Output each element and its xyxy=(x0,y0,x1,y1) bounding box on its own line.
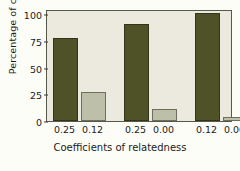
bar xyxy=(223,117,240,121)
y-axis-tick-mark xyxy=(44,68,48,69)
bar xyxy=(53,38,78,121)
x-axis-tick-label: 0.00 xyxy=(153,124,174,135)
y-axis-tick-mark xyxy=(44,122,48,123)
bar xyxy=(152,109,177,121)
bar xyxy=(195,13,220,121)
x-axis-tick-label: 0.25 xyxy=(54,124,75,135)
bars-container xyxy=(47,11,231,121)
y-axis-tick-label: 50 xyxy=(12,63,42,74)
bar-chart-figure: Percentage of choices 0255075100 0.250.1… xyxy=(0,0,240,171)
bar xyxy=(124,24,149,121)
y-axis-tick-mark xyxy=(44,95,48,96)
y-axis-tick-label: 100 xyxy=(12,10,42,21)
y-axis-tick-label: 75 xyxy=(12,37,42,48)
x-axis-tick-labels: 0.250.120.250.000.120.00 xyxy=(46,124,232,138)
x-axis-tick-label: 0.12 xyxy=(196,124,217,135)
x-axis-title: Coefficients of relatedness xyxy=(0,142,240,153)
x-axis-tick-label: 0.25 xyxy=(125,124,146,135)
y-axis-tick-label: 25 xyxy=(12,90,42,101)
y-axis-tick-mark xyxy=(44,42,48,43)
x-axis-tick-label: 0.12 xyxy=(82,124,103,135)
plot-area xyxy=(46,10,232,122)
y-axis-tick-mark xyxy=(44,15,48,16)
y-axis-tick-label: 0 xyxy=(12,117,42,128)
x-axis-tick-label: 0.00 xyxy=(224,124,240,135)
y-axis-tick-labels: 0255075100 xyxy=(12,10,42,122)
bar xyxy=(81,92,106,121)
